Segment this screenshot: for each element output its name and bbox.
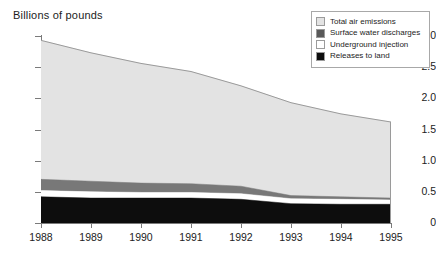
x-axis-tick — [241, 223, 242, 228]
legend-item: Surface water discharges — [316, 28, 425, 38]
x-axis-tick — [91, 223, 92, 228]
legend-item: Underground injection — [316, 40, 425, 50]
x-axis-tick-label: 1990 — [118, 231, 164, 243]
x-axis-tick-label: 1988 — [18, 231, 64, 243]
x-axis-tick — [291, 223, 292, 228]
legend-item-label: Releases to land — [330, 51, 390, 61]
x-axis-tick — [341, 223, 342, 228]
x-axis-tick-label: 1991 — [168, 231, 214, 243]
legend-item: Releases to land — [316, 51, 425, 61]
x-axis-tick — [391, 223, 392, 228]
x-axis-tick — [141, 223, 142, 228]
y-axis-tick-label: 0.5 — [402, 186, 436, 197]
legend-item: Total air emissions — [316, 17, 425, 27]
chart-container: Billions of pounds 00.51.01.52.02.53.0 1… — [0, 0, 436, 255]
y-axis-tick-label: 0 — [402, 217, 436, 228]
x-axis-tick — [191, 223, 192, 228]
y-axis-tick-label: 1.5 — [402, 124, 436, 135]
legend-swatch-icon — [316, 52, 325, 61]
legend-item-label: Surface water discharges — [330, 28, 420, 38]
y-axis-tick-label: 1.0 — [402, 155, 436, 166]
x-axis-tick-label: 1995 — [368, 231, 414, 243]
x-axis-tick — [41, 223, 42, 228]
legend-swatch-icon — [316, 17, 325, 26]
x-axis-tick-label: 1993 — [268, 231, 314, 243]
legend-item-label: Underground injection — [330, 40, 408, 50]
x-axis-tick-label: 1992 — [218, 231, 264, 243]
y-axis-tick-label: 2.0 — [402, 92, 436, 103]
x-axis-line — [41, 223, 392, 224]
x-axis-tick-label: 1994 — [318, 231, 364, 243]
x-axis-tick-label: 1989 — [68, 231, 114, 243]
y-axis-title: Billions of pounds — [13, 9, 103, 22]
legend-swatch-icon — [316, 40, 325, 49]
legend-swatch-icon — [316, 29, 325, 38]
legend-item-label: Total air emissions — [330, 17, 396, 27]
chart-legend: Total air emissionsSurface water dischar… — [311, 11, 430, 68]
